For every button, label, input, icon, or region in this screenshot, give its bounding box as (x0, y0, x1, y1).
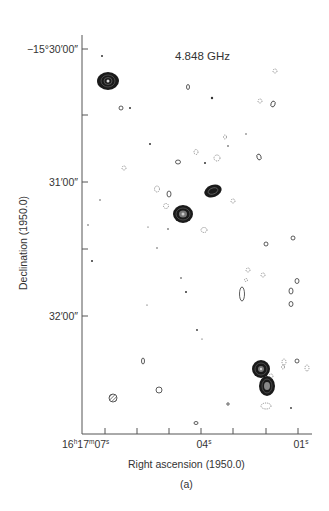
source-2 (173, 205, 193, 223)
contour-map (0, 0, 329, 511)
xtick-label-01: 01s (294, 438, 309, 450)
ytick-label-30: −15°30′00″ (8, 43, 78, 55)
negative-contours (122, 69, 309, 409)
beam-ellipse (109, 394, 117, 402)
y-axis-label: Declination (1950.0) (17, 196, 29, 290)
noise-specks (87, 55, 292, 409)
source-1 (97, 72, 119, 90)
source-5 (259, 376, 275, 396)
weak-contours (119, 85, 299, 425)
chart-title: 4.848 GHz (175, 50, 230, 62)
xtick-04-unit: s (208, 438, 211, 445)
xtick-07-s-unit: s (106, 438, 109, 445)
x-axis-label: Right ascension (1950.0) (128, 458, 245, 470)
axes (82, 35, 312, 434)
ytick-label-32: 32′00″ (8, 310, 78, 322)
xtick-label-04: 04s (197, 438, 212, 450)
xtick-07-minutes: 17 (77, 438, 89, 450)
xtick-label-07: 16h17m07s (62, 438, 109, 450)
source-3 (202, 182, 223, 199)
xtick-04-value: 04 (197, 438, 209, 450)
xtick-01-value: 01 (294, 438, 306, 450)
source-4 (252, 360, 270, 378)
xtick-01-unit: s (305, 438, 308, 445)
xtick-07-seconds: 07 (94, 438, 106, 450)
xtick-07-hours: 16 (62, 438, 74, 450)
figure-caption: (a) (180, 478, 193, 490)
ytick-label-31: 31′00″ (8, 176, 78, 188)
